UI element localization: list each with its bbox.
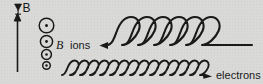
electron-trochoid	[62, 61, 209, 76]
field-label-b: B	[56, 38, 64, 52]
electrons-label: electrons	[216, 69, 261, 81]
gradient-direction-arrow	[14, 14, 21, 73]
field-dot-2	[40, 35, 52, 47]
field-dot-1	[39, 18, 54, 33]
physics-figure-gradient-b-drift: B B ions	[0, 0, 263, 84]
magnetic-field-out-of-page	[39, 18, 54, 69]
field-dot-3	[42, 50, 52, 60]
gradient-b-label: B	[23, 1, 31, 15]
ion-drift-arrowhead	[100, 42, 109, 49]
figure-canvas: B B ions	[0, 0, 263, 84]
ions-label: ions	[70, 39, 91, 51]
ion-trochoid	[106, 17, 252, 45]
electron-drift-arrowhead	[203, 73, 213, 79]
field-dot-4	[43, 62, 51, 70]
gradient-operator-icon	[15, 4, 22, 14]
